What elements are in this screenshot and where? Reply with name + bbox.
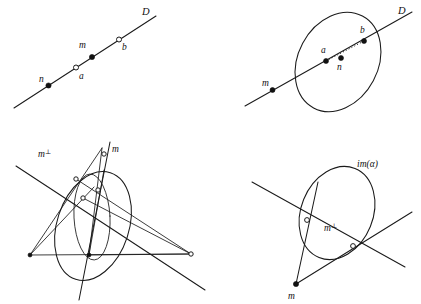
label-m-perp-sup-bottom-left: ⊥ [45,148,51,155]
point-n-top-right [339,56,344,61]
point-b-top-left [117,37,122,42]
line-D-top-left [14,16,156,108]
geometry-figure-canvas: D n a m b D m a n b [0,0,421,304]
line-m-bottom-left [79,142,110,300]
panel-top-left: D n a m b [14,6,156,108]
point-a-top-left [74,65,79,70]
label-m-perp-bottom-right: m⊥ [324,222,337,234]
pencil-line-5-bottom-left [89,170,104,255]
line-D-top-right [245,12,412,106]
point-b-top-right [362,39,367,44]
line-m-perp-bottom-left [16,166,205,290]
label-point-b-top-right: b [360,25,365,35]
label-point-a-top-right: a [321,45,326,55]
figure-sheet: D n a m b D m a n b [0,0,421,304]
point-m-top-left [89,54,94,59]
panel-bottom-left: m⊥ m [16,142,205,300]
label-m-bottom-left: m [112,144,119,154]
label-point-m-top-left: m [79,40,86,50]
point-m-top-right [270,88,275,93]
label-im-alpha-bottom-right: im(α) [357,159,378,170]
conic-im-alpha-bottom-right [286,155,389,271]
label-point-m-top-right: m [262,78,269,88]
label-m-perp-sup-bottom-right: ⊥ [331,222,337,229]
label-line-D-top-right: D [397,5,406,16]
intersection-point-left-bottom-right [305,218,310,223]
intersection-point-6-bottom-left [28,253,32,257]
point-n-top-left [46,83,51,88]
label-point-a-top-left: a [79,71,84,81]
intersection-point-right-bottom-right [351,244,356,249]
intersection-point-1-bottom-left [74,177,78,181]
panel-bottom-right: im(α) m⊥ m [252,155,412,301]
conic-inner-ellipse-bottom-left [72,173,112,261]
intersection-point-5-bottom-left [102,152,106,156]
label-point-n-top-left: n [39,74,44,84]
label-m-perp-bottom-left: m⊥ [38,148,51,160]
line-m-bottom-right [296,182,318,284]
intersection-point-2-bottom-left [96,188,100,192]
label-point-b-top-left: b [122,42,127,52]
point-a-top-right [324,59,329,64]
chord-a-b-dotted-top-right [326,41,364,61]
intersection-point-3-bottom-left [81,196,85,200]
label-point-n-top-right: n [337,62,342,72]
panel-top-right: D m a n b [245,0,412,127]
point-m-bottom-right [293,281,298,286]
label-line-D-top-left: D [141,6,150,17]
intersection-point-4-bottom-left [189,252,193,256]
label-m-point-bottom-right: m [288,291,295,301]
intersection-point-7-bottom-left [87,253,91,257]
